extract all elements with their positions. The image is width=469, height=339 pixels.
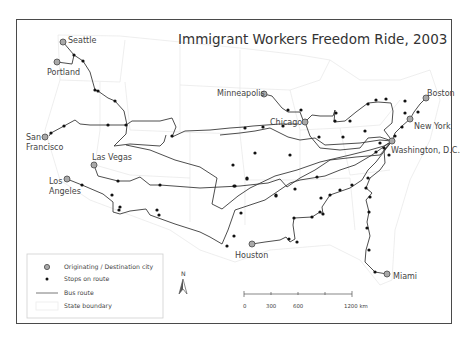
route-sanfrancisco (49, 118, 298, 137)
label-washington-dc: Washington, D.C. (391, 146, 460, 155)
city-marker-houston (249, 241, 255, 247)
scale-bar: 0 300 600 1200 km (243, 291, 368, 309)
city-marker-san-francisco (42, 134, 48, 140)
map-title: Immigrant Workers Freedom Ride, 2003 (178, 31, 447, 47)
legend-stop-icon (46, 278, 49, 281)
city-marker-seattle (60, 39, 66, 45)
scale-tick-1200: 1200 km (344, 303, 368, 309)
city-marker-miami (384, 271, 390, 277)
north-label: N (181, 270, 186, 277)
label-boston: Boston (427, 89, 455, 98)
legend-city-icon (44, 264, 49, 269)
route-stops (49, 53, 419, 273)
label-angeles: Angeles (49, 187, 81, 196)
legend-label-stop: Stops on route (64, 275, 109, 283)
label-new-york: New York (414, 122, 451, 131)
label-minneapolis: Minneapolis (217, 89, 265, 98)
legend-label-city: Originating / Destination city (64, 263, 154, 271)
label-san: San (26, 133, 41, 142)
city-marker-los-angeles (64, 176, 70, 182)
route-miami (365, 141, 392, 274)
city-marker-new-york (407, 116, 413, 122)
city-marker-las-vegas (91, 162, 97, 168)
stop-marker (72, 53, 75, 56)
legend: Originating / Destination city Stops on … (27, 254, 163, 318)
north-arrow: N (179, 270, 187, 294)
label-francisco: Francisco (26, 143, 63, 152)
scale-tick-600: 600 (293, 303, 304, 309)
label-portland: Portland (47, 68, 80, 77)
label-los: Los (49, 177, 62, 186)
city-marker-washington-dc (389, 138, 395, 144)
legend-label-state: State boundary (64, 302, 112, 310)
label-las-vegas: Las Vegas (92, 153, 132, 162)
label-houston: Houston (235, 251, 268, 260)
city-marker-portland (54, 59, 60, 65)
legend-label-route: Bus route (64, 289, 94, 296)
label-miami: Miami (393, 272, 417, 281)
label-seattle: Seattle (68, 36, 96, 45)
label-chicago: Chicago (270, 118, 302, 127)
map-canvas: Immigrant Workers Freedom Ride, 2003 (0, 0, 469, 339)
route-seattle (63, 42, 166, 146)
city-marker-chicago (302, 119, 308, 125)
scale-tick-0: 0 (243, 303, 247, 309)
scale-tick-300: 300 (266, 303, 277, 309)
